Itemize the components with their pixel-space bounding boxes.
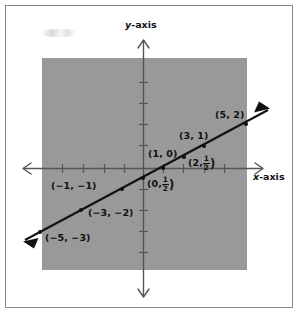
point-marker-neg3 <box>79 208 83 212</box>
point-label-zero: (0,12) <box>147 176 174 192</box>
point-marker-neg5 <box>38 230 42 234</box>
point-marker-five <box>244 122 248 126</box>
point-label-neg1: (−1, −1) <box>51 181 97 191</box>
point-label-neg5: (−5, −3) <box>45 233 91 243</box>
point-label-zero-suffix: ) <box>169 180 174 192</box>
fraction-one-half-two: 12 <box>203 155 209 171</box>
point-label-two-prefix: (2, <box>188 157 203 168</box>
point-label-neg3: (−3, −2) <box>88 208 134 218</box>
point-label-five: (5, 2) <box>215 110 244 120</box>
point-label-zero-prefix: (0, <box>147 178 162 189</box>
fraction-denominator: 2 <box>162 185 168 193</box>
y-axis-label: y-axis <box>125 20 157 30</box>
figure-container: y-axis x-axis (−5, −3) (−3, −2) (−1, −1)… <box>0 0 301 315</box>
point-label-one: (1, 0) <box>148 149 177 159</box>
point-marker-two <box>182 155 186 159</box>
point-label-two-suffix: ) <box>210 159 215 171</box>
point-marker-zero <box>141 176 145 180</box>
x-axis-label: x-axis <box>253 172 285 182</box>
fraction-denominator: 2 <box>203 164 209 172</box>
point-label-three: (3, 1) <box>179 131 208 141</box>
point-marker-one <box>161 166 165 170</box>
fraction-one-half-zero: 12 <box>162 176 168 192</box>
point-marker-three <box>202 144 206 148</box>
point-label-two: (2,12) <box>188 155 215 171</box>
point-marker-neg1 <box>120 187 124 191</box>
